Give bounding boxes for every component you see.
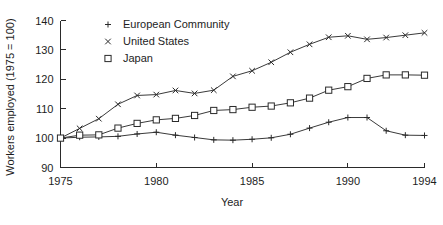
legend-marker-cross-icon [105, 39, 111, 45]
legend-marker-plus-icon [105, 22, 111, 28]
y-tick-label: 110 [36, 103, 54, 115]
y-tick-label: 130 [35, 44, 53, 56]
data-point [230, 137, 236, 143]
data-point [57, 135, 63, 141]
data-point [345, 115, 351, 121]
x-tick-label: 1990 [336, 175, 360, 187]
data-point [172, 132, 178, 138]
legend-label: European Community [123, 18, 230, 30]
data-point [115, 101, 121, 107]
data-point [192, 135, 198, 141]
chart-legend: European CommunityUnited StatesJapan [105, 18, 230, 64]
data-point [383, 72, 389, 78]
data-point [211, 107, 217, 113]
data-point [307, 125, 313, 131]
data-point [96, 116, 102, 122]
data-series-layer [57, 30, 427, 143]
data-point [134, 131, 140, 137]
x-tick-label: 1994 [412, 175, 436, 187]
legend-item-1: United States [105, 35, 189, 47]
data-point [96, 132, 102, 138]
y-axis-title: Workers employed (1975 = 100) [4, 18, 16, 175]
data-point [153, 117, 159, 123]
data-series-2 [57, 72, 427, 141]
data-point [77, 126, 83, 132]
data-point [288, 49, 294, 55]
x-tick-label: 1980 [144, 175, 168, 187]
line-chart-canvas: 90100110120130140 19751980198519901994 E… [0, 0, 443, 225]
data-point [287, 131, 293, 137]
data-point [249, 136, 255, 142]
y-tick-label: 140 [35, 15, 53, 27]
data-point [307, 42, 313, 48]
x-tick-label: 1975 [48, 175, 72, 187]
y-tick-label: 120 [35, 73, 53, 85]
data-point [249, 104, 255, 110]
data-point [230, 74, 236, 80]
series-polyline [61, 33, 425, 138]
x-axis-ticks: 19751980198519901994 [48, 163, 436, 187]
data-point [249, 68, 255, 74]
data-point [402, 72, 408, 78]
data-series-1 [58, 30, 428, 141]
axis-lines [61, 21, 425, 168]
data-series-0 [58, 115, 428, 144]
legend-marker-square-icon [105, 55, 111, 61]
chart-figure: 90100110120130140 19751980198519901994 E… [0, 0, 443, 225]
data-point [115, 125, 121, 131]
legend-item-2: Japan [105, 52, 153, 64]
data-point [306, 95, 312, 101]
data-point [402, 132, 408, 138]
data-point [326, 119, 332, 125]
data-point [153, 129, 159, 135]
x-axis-title: Year [221, 196, 244, 208]
data-point [134, 120, 140, 126]
legend-label: Japan [123, 52, 153, 64]
x-tick-label: 1985 [240, 175, 264, 187]
data-point [287, 100, 293, 106]
data-point [230, 106, 236, 112]
data-point [77, 132, 83, 138]
data-point [211, 137, 217, 143]
y-tick-label: 100 [35, 132, 53, 144]
data-point [268, 135, 274, 141]
data-point [326, 87, 332, 93]
data-point [172, 115, 178, 121]
data-point [268, 103, 274, 109]
data-point [422, 132, 428, 138]
data-point [364, 115, 370, 121]
data-point [345, 84, 351, 90]
data-point [268, 59, 274, 65]
data-point [383, 128, 389, 134]
legend-item-0: European Community [105, 18, 230, 30]
data-point [421, 72, 427, 78]
data-point [115, 133, 121, 139]
data-point [364, 75, 370, 81]
data-point [192, 112, 198, 118]
legend-label: United States [123, 35, 190, 47]
y-tick-label: 90 [41, 162, 53, 174]
